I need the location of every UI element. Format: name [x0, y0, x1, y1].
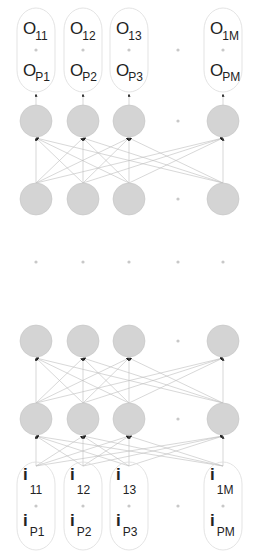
neuron-node — [67, 325, 99, 357]
input-top-label: i1M — [210, 465, 233, 497]
neuron-node — [113, 403, 145, 435]
neuron-node — [207, 325, 239, 357]
output-top-label: O1M — [210, 19, 239, 43]
neuron-node — [20, 105, 52, 137]
neuron-node — [113, 183, 145, 215]
ellipsis-dot — [176, 260, 179, 263]
output-bottom-label: OPM — [210, 61, 240, 84]
ellipsis-dot — [221, 260, 224, 263]
neuron-node — [207, 105, 239, 137]
ellipsis-dot — [127, 260, 130, 263]
input-top-label: i11 — [23, 465, 43, 497]
ellipsis-dot — [176, 339, 179, 342]
neuron-node — [20, 325, 52, 357]
ellipsis-dot — [127, 48, 130, 51]
ellipsis-dot — [176, 504, 179, 507]
ellipsis-dot — [81, 260, 84, 263]
input-top-label: i12 — [70, 465, 90, 497]
neuron-node — [67, 403, 99, 435]
input-bottom-label: iP2 — [70, 511, 92, 539]
neuron-node — [20, 183, 52, 215]
ellipsis-dot — [176, 119, 179, 122]
input-bottom-label: iP3 — [116, 511, 138, 539]
input-bottom-label: iP1 — [23, 511, 45, 539]
neuron-node — [67, 105, 99, 137]
neuron-node — [207, 183, 239, 215]
output-top-label: O11 — [23, 19, 48, 43]
ellipsis-dot — [221, 504, 224, 507]
neural-network-diagram: O11OP1O12OP2O13OP3O1MOPMi11iP1i12iP2i13i… — [0, 0, 258, 555]
neuron-node — [113, 325, 145, 357]
neuron-node — [20, 403, 52, 435]
ellipsis-dot — [34, 260, 37, 263]
input-bottom-label: iPM — [210, 511, 235, 539]
ellipsis-dot — [81, 48, 84, 51]
ellipsis-dot — [221, 48, 224, 51]
output-top-label: O12 — [70, 19, 96, 43]
output-bottom-label: OP3 — [116, 61, 143, 84]
ellipsis-dot — [34, 48, 37, 51]
output-bottom-label: OP2 — [70, 61, 97, 84]
ellipsis-dot — [34, 504, 37, 507]
ellipsis-dot — [176, 417, 179, 420]
ellipsis-dot — [81, 504, 84, 507]
output-bottom-label: OP1 — [23, 61, 50, 84]
output-top-label: O13 — [116, 19, 142, 43]
neuron-node — [67, 183, 99, 215]
neuron-node — [207, 403, 239, 435]
neuron-node — [113, 105, 145, 137]
ellipsis-dot — [176, 48, 179, 51]
input-top-label: i13 — [116, 465, 136, 497]
ellipsis-dot — [127, 504, 130, 507]
ellipsis-dot — [176, 197, 179, 200]
vector-capsules — [17, 8, 242, 550]
